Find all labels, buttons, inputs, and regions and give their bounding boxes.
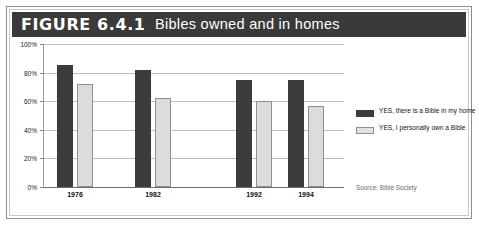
legend-swatch-dark	[356, 110, 374, 117]
y-axis-label: 0%	[28, 184, 37, 191]
y-axis-label: 20%	[24, 155, 37, 162]
y-axis-label: 40%	[24, 126, 37, 133]
chart-bar	[256, 101, 272, 187]
chart-bar	[236, 80, 252, 187]
chart-bar	[135, 70, 151, 187]
y-gridline	[44, 44, 344, 45]
x-axis-label: 1992	[246, 191, 262, 198]
legend-item: YES, there is a Bible in my home	[356, 108, 471, 125]
legend-label: YES, there is a Bible in my home	[379, 107, 475, 114]
y-axis-tick	[40, 158, 44, 159]
chart-bar	[77, 84, 93, 187]
source-note: Source: Bible Society	[356, 184, 417, 191]
y-axis-label: 60%	[24, 98, 37, 105]
legend-label: YES, I personally own a Bible	[379, 124, 466, 131]
chart-legend: YES, there is a Bible in my homeYES, I p…	[356, 108, 471, 142]
chart-bar	[57, 65, 73, 187]
y-gridline	[44, 73, 344, 74]
chart-bar	[308, 106, 324, 188]
x-axis-label: 1976	[67, 191, 83, 198]
y-axis-tick	[40, 44, 44, 45]
y-axis-label: 100%	[20, 41, 37, 48]
chart-bar	[288, 80, 304, 187]
chart-plot-area: 0%20%40%60%80%100%1976198219921994	[43, 44, 344, 188]
y-axis-tick	[40, 130, 44, 131]
y-axis-tick	[40, 73, 44, 74]
figure-container: FIGURE 6.4.1 Bibles owned and in homes 0…	[0, 0, 479, 226]
y-axis-tick	[40, 101, 44, 102]
y-axis-tick	[40, 187, 44, 188]
y-axis-label: 80%	[24, 69, 37, 76]
x-axis-label: 1982	[145, 191, 161, 198]
chart-bar	[155, 98, 171, 187]
x-axis-label: 1994	[298, 191, 314, 198]
legend-swatch-light	[356, 127, 374, 134]
legend-item: YES, I personally own a Bible	[356, 125, 471, 142]
